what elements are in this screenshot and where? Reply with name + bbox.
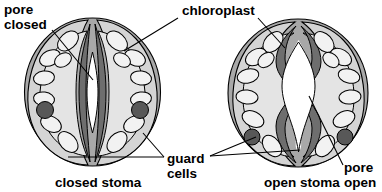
open-nucleus-left [244,129,260,145]
label-pore-open-line2: open [344,175,376,190]
label-chloroplast: chloroplast [182,3,255,18]
closed-nucleus-right [132,102,149,119]
caption-open-stoma: open stoma [264,175,340,190]
label-pore-closed-line1: pore [4,2,34,17]
closed-stoma-diagram [25,18,161,166]
caption-closed-stoma: closed stoma [55,175,142,190]
label-pore-open-line1: pore [344,160,374,175]
closed-nucleus-left [37,102,54,119]
label-guard-cells-line1: guard [167,151,205,166]
label-guard-cells-line2: cells [167,166,197,181]
stomata-diagram: pore closed chloroplast guard cells pore… [0,0,382,192]
label-pore-closed-line2: closed [4,17,47,32]
open-stoma-diagram [228,19,368,167]
leader-guard-cells-closed-b [143,133,164,157]
open-nucleus-right [337,129,353,145]
